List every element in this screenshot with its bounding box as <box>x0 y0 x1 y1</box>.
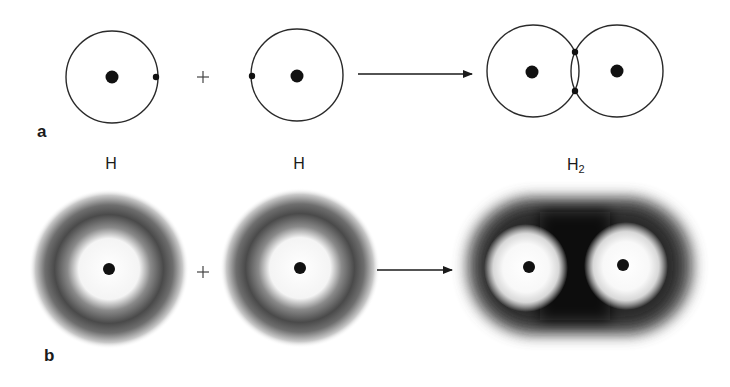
nucleus <box>291 70 304 83</box>
shared-electron-top <box>572 49 578 55</box>
electron-cloud-hydrogen-2 <box>220 188 380 348</box>
nucleus-left <box>526 66 539 79</box>
nucleus-left <box>523 261 535 273</box>
nucleus-right <box>611 65 624 78</box>
panel-a: a <box>37 25 663 141</box>
atom-label-h-1: H <box>105 155 117 172</box>
panel-label-b: b <box>44 346 54 365</box>
hydrogen-bond-formation-diagram: a H H H2 <box>0 0 730 387</box>
electron <box>153 74 159 80</box>
nucleus <box>103 263 115 275</box>
molecule-label-subscript: 2 <box>579 163 585 175</box>
bohr-atom-hydrogen-1 <box>66 31 159 123</box>
electron <box>249 73 255 79</box>
bohr-molecule-h2 <box>487 25 663 117</box>
electron-cloud-hydrogen-1 <box>29 189 189 349</box>
nucleus <box>294 262 306 274</box>
nucleus <box>106 71 119 84</box>
panel-b: H H H2 b <box>29 155 694 365</box>
panel-label-a: a <box>37 122 47 141</box>
molecule-label-h2: H2 <box>567 156 585 175</box>
bohr-atom-hydrogen-2 <box>249 29 343 121</box>
nucleus-right <box>617 259 629 271</box>
plus-sign-b <box>197 266 209 278</box>
electron-cloud-h2-molecule <box>466 196 694 336</box>
atom-label-h-2: H <box>293 155 305 172</box>
molecule-label-symbol: H <box>567 156 579 173</box>
shared-electron-bottom <box>572 88 578 94</box>
plus-sign-a <box>197 71 209 83</box>
